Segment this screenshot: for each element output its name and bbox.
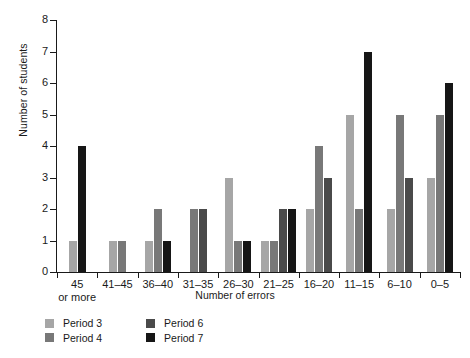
y-axis-tick (50, 146, 56, 147)
legend: Period 3Period 4 Period 6Period 7 (45, 318, 203, 343)
bar (270, 241, 278, 273)
y-axis-tick (50, 20, 56, 21)
legend-item-label: Period 3 (63, 318, 102, 329)
bar (427, 178, 435, 273)
y-axis-tick (50, 209, 56, 210)
y-axis-tick-label: 4 (28, 140, 48, 151)
y-axis-tick-label: 0 (28, 266, 48, 277)
y-axis-tick-label: 3 (28, 172, 48, 183)
bar-group (420, 20, 460, 272)
legend-item[interactable]: Period 6 (146, 318, 203, 329)
bar (364, 52, 372, 273)
bar-group (299, 20, 339, 272)
bar (69, 241, 77, 273)
bar (225, 178, 233, 273)
bar (78, 146, 86, 272)
y-axis-tick-label: 1 (28, 235, 48, 246)
legend-item[interactable]: Period 4 (45, 333, 102, 344)
bar-group (57, 20, 97, 272)
legend-swatch-icon (45, 333, 54, 342)
bar (279, 209, 287, 272)
bar (306, 209, 314, 272)
y-axis-tick-label: 6 (28, 77, 48, 88)
bar (261, 241, 269, 273)
y-axis-tick-label: 8 (28, 14, 48, 25)
bar (324, 178, 332, 273)
legend-swatch-icon (146, 319, 155, 328)
bar (234, 241, 242, 273)
bar-group (97, 20, 137, 272)
bar (346, 115, 354, 273)
bar (355, 209, 363, 272)
bar-group (258, 20, 298, 272)
y-axis-tick (50, 52, 56, 53)
bar-group (138, 20, 178, 272)
bar (145, 241, 153, 273)
legend-item-label: Period 4 (63, 333, 102, 344)
bar-groups (57, 20, 460, 272)
legend-column-one: Period 3Period 4 (45, 318, 102, 343)
bar (315, 146, 323, 272)
y-axis-tick (50, 178, 56, 179)
x-axis-tick (460, 272, 461, 278)
y-axis-tick-label: 2 (28, 203, 48, 214)
bar-chart: Number of students 012345678 45or more41… (0, 0, 470, 358)
bar (243, 241, 251, 273)
y-axis-tick (50, 272, 56, 273)
bar (436, 115, 444, 273)
legend-item[interactable]: Period 3 (45, 318, 102, 329)
bar (118, 241, 126, 273)
legend-item[interactable]: Period 7 (146, 333, 203, 344)
bar (445, 83, 453, 272)
legend-item-label: Period 6 (164, 318, 203, 329)
bar-group (379, 20, 419, 272)
bar (387, 209, 395, 272)
legend-swatch-icon (45, 319, 54, 328)
bar (199, 209, 207, 272)
y-axis-tick (50, 83, 56, 84)
bar (163, 241, 171, 273)
bar-group (178, 20, 218, 272)
bar (405, 178, 413, 273)
y-axis-title: Number of students (17, 25, 29, 155)
bar-group (339, 20, 379, 272)
bar-group (218, 20, 258, 272)
plot-area: 012345678 (56, 20, 460, 272)
bar (396, 115, 404, 273)
legend-swatch-icon (146, 333, 155, 342)
y-axis-tick-label: 5 (28, 109, 48, 120)
bar (154, 209, 162, 272)
y-axis-tick (50, 115, 56, 116)
y-axis-tick (50, 241, 56, 242)
bar (190, 209, 198, 272)
bar (288, 209, 296, 272)
legend-item-label: Period 7 (164, 333, 203, 344)
y-axis-tick-label: 7 (28, 46, 48, 57)
bar (109, 241, 117, 273)
x-axis-title: Number of errors (0, 289, 470, 301)
legend-column-two: Period 6Period 7 (146, 318, 203, 343)
